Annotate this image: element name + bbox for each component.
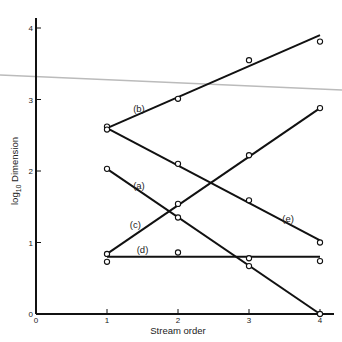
x-tick-label: 4	[318, 316, 323, 325]
data-point-marker	[317, 258, 322, 263]
data-point-marker	[246, 256, 251, 261]
data-point-marker	[246, 263, 251, 268]
series-label: (a)	[133, 180, 145, 191]
series-label: (c)	[130, 219, 141, 230]
series-label: (b)	[133, 103, 145, 114]
series-d: (d)	[104, 244, 322, 265]
data-point-marker	[104, 251, 109, 256]
series-b: (b)	[104, 35, 322, 129]
x-tick-label: 3	[247, 316, 252, 325]
data-point-marker	[317, 105, 322, 110]
series-label: (d)	[137, 244, 149, 255]
data-point-marker	[175, 250, 180, 255]
y-tick-label: 2	[29, 167, 34, 176]
x-tick-label: 0	[34, 316, 39, 325]
data-point-marker	[175, 161, 180, 166]
x-axis-title: Stream order	[150, 325, 205, 336]
data-point-marker	[104, 259, 109, 264]
axes: 0123401234	[29, 18, 334, 325]
y-tick-label: 0	[29, 310, 34, 319]
data-point-marker	[317, 240, 322, 245]
data-point-marker	[175, 201, 180, 206]
y-tick-label: 4	[29, 24, 34, 33]
y-axis-title: log10 Dimension	[9, 137, 22, 205]
data-point-marker	[246, 153, 251, 158]
data-point-marker	[246, 58, 251, 63]
data-point-marker	[104, 127, 109, 132]
series-group: (a)(b)(c)(d)(e)	[104, 35, 322, 316]
data-point-marker	[175, 96, 180, 101]
y-tick-label: 1	[29, 239, 34, 248]
scan-artifact-line	[0, 75, 342, 90]
x-tick-label: 1	[105, 316, 110, 325]
x-tick-label: 2	[176, 316, 181, 325]
line-chart: 0123401234 (a)(b)(c)(d)(e) Stream order …	[0, 0, 342, 342]
data-point-marker	[104, 166, 109, 171]
data-point-marker	[317, 311, 322, 316]
series-a: (a)	[104, 166, 322, 316]
data-point-marker	[175, 215, 180, 220]
series-label: (e)	[282, 213, 294, 224]
data-point-marker	[246, 198, 251, 203]
y-tick-label: 3	[29, 96, 34, 105]
data-point-marker	[317, 39, 322, 44]
